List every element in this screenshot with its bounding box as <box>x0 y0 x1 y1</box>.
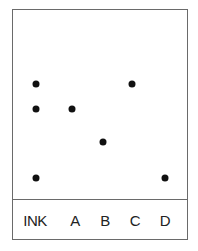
baseline-divider <box>12 199 188 200</box>
spot-c <box>129 81 136 88</box>
spot-ink <box>33 106 40 113</box>
lane-label-c: C <box>130 212 140 229</box>
spot-d <box>162 175 169 182</box>
plate-frame <box>12 9 188 240</box>
spot-ink <box>33 175 40 182</box>
spot-b <box>100 139 107 146</box>
lane-label-a: A <box>70 212 80 229</box>
spot-a <box>69 106 76 113</box>
lane-label-ink: INK <box>23 212 47 229</box>
lane-label-b: B <box>100 212 110 229</box>
lane-label-d: D <box>160 212 170 229</box>
spot-ink <box>33 81 40 88</box>
